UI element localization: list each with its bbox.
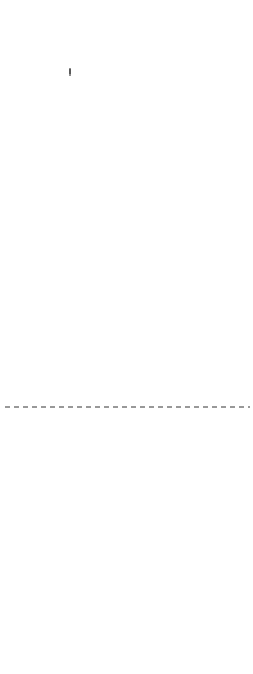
glyoxylate-cycle-diagram	[0, 0, 253, 674]
diagram-frame	[0, 0, 253, 674]
reaction-arrows	[0, 0, 253, 674]
